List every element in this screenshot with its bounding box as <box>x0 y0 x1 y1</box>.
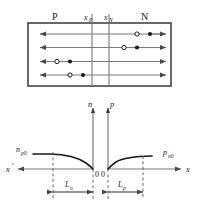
np0-label: n <box>16 145 20 154</box>
x-p-boundary-label: x <box>83 13 88 22</box>
n-region-label: N <box>141 11 148 22</box>
hole-open-circle <box>55 59 59 63</box>
lp-label-subscript: p <box>122 185 126 191</box>
p-axis-label: p <box>109 99 114 109</box>
hole-open-circle <box>68 73 72 77</box>
n-axis-label: n <box>88 99 92 109</box>
electron-filled-circle <box>81 73 85 77</box>
electron-filled-circle <box>135 45 139 49</box>
x-n-boundary-label: x <box>103 13 108 22</box>
ln-label-subscript: n <box>70 185 73 191</box>
x-prime-axis-label: x <box>5 164 10 174</box>
p-region-label: P <box>52 11 58 22</box>
hole-open-circle <box>135 32 139 36</box>
pn-junction-figure: P N x P x N <box>0 0 199 208</box>
figure-canvas: P N x P x N <box>0 0 199 208</box>
right-origin-zero-label: 0 <box>101 170 105 179</box>
pn0-label: p <box>162 148 167 157</box>
hole-open-circle <box>122 45 126 49</box>
electron-filled-circle <box>68 59 72 63</box>
np0-label-subscript: p0 <box>20 150 27 156</box>
figure-background <box>0 0 199 208</box>
left-origin-zero-label: 0 <box>95 170 99 179</box>
electron-filled-circle <box>148 32 152 36</box>
pn0-label-subscript: n0 <box>168 153 174 159</box>
x-prime-axis-prime-mark: ′ <box>12 162 14 171</box>
x-axis-label: x <box>185 164 190 174</box>
